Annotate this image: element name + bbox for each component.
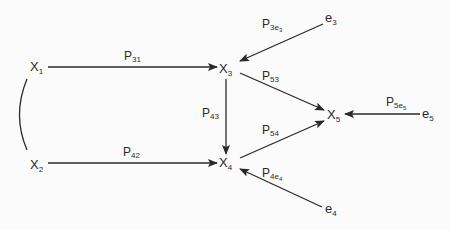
correlation-curve-x1-x2	[20, 79, 28, 150]
label-p53: P53	[262, 69, 279, 84]
edge-e4-x4	[240, 169, 322, 207]
label-p54: P54	[262, 123, 279, 138]
node-x1: X1	[30, 59, 44, 76]
label-p5e5: P5e5	[386, 95, 407, 111]
edge-x3-x5	[240, 73, 324, 110]
label-p42: P42	[123, 145, 140, 160]
node-e5: e5	[422, 106, 434, 123]
edge-x4-x5	[240, 121, 324, 158]
label-p31: P31	[124, 49, 141, 64]
node-e4: e4	[325, 201, 337, 218]
node-x4: X4	[219, 155, 233, 172]
node-x3: X3	[219, 61, 233, 78]
label-p4e4: P4e4	[262, 166, 283, 182]
node-x5: X5	[327, 107, 341, 124]
path-diagram: X1 X2 X3 X4 X5 e3 e4 e5 P31 P42 P43 P53 …	[0, 0, 450, 230]
label-p43: P43	[202, 106, 219, 121]
node-e3: e3	[325, 10, 337, 27]
label-p3e3: P3e3	[262, 17, 283, 33]
node-x2: X2	[30, 157, 44, 174]
